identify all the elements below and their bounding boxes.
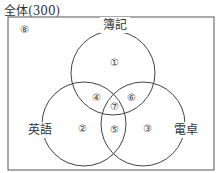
set-label-eigo: 英語 (28, 122, 52, 137)
region-2: ② (78, 123, 87, 134)
region-4: ④ (92, 92, 101, 103)
universe-rectangle (8, 17, 214, 170)
region-8: ⑧ (20, 24, 29, 35)
set-label-boki: 簿記 (103, 17, 127, 32)
set-label-dentaku: 電卓 (174, 123, 198, 137)
region-1: ① (110, 57, 119, 68)
region-5: ⑤ (110, 124, 119, 135)
region-6: ⑥ (127, 92, 136, 103)
venn-diagram: 簿記 英語 電卓 ⑧ ① ② ③ ④ ⑤ ⑥ ⑦ (0, 0, 220, 173)
region-3: ③ (143, 123, 152, 134)
region-7: ⑦ (110, 101, 119, 112)
